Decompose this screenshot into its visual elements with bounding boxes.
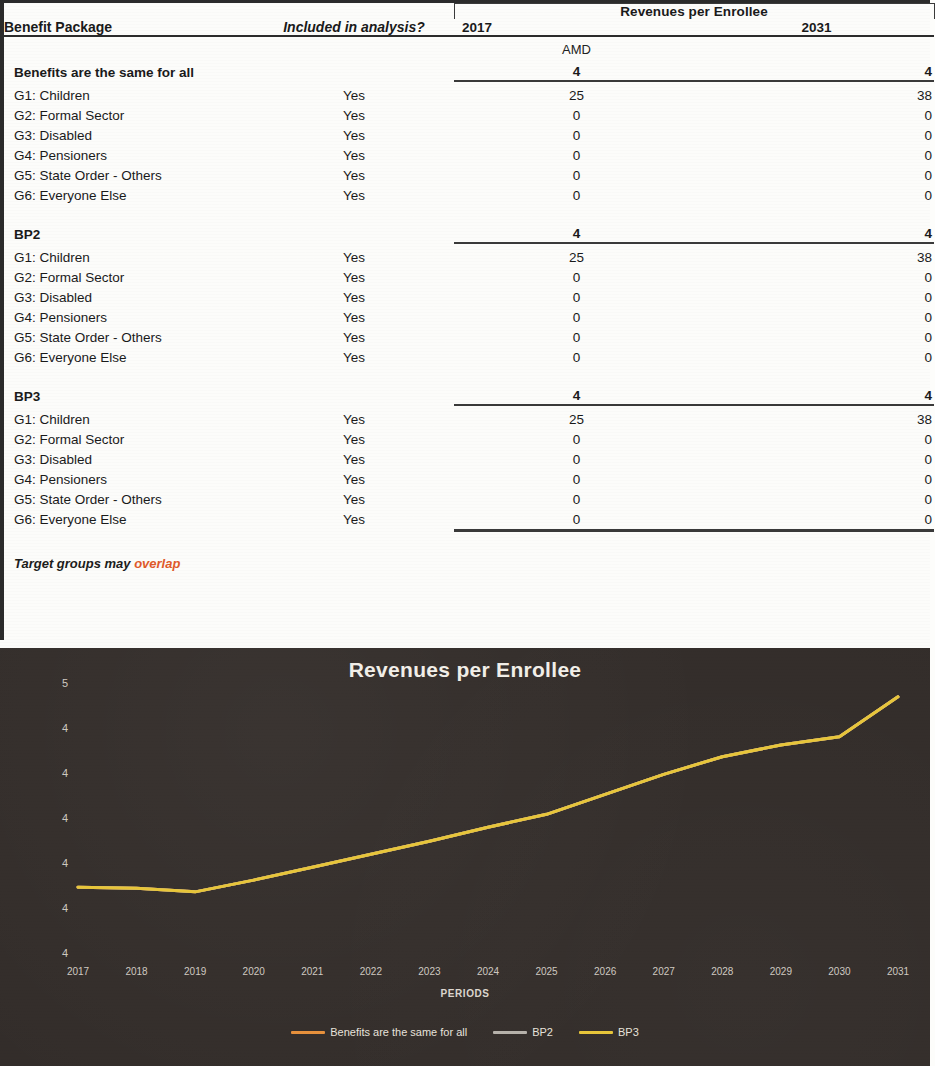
x-axis-tick: 2017 bbox=[67, 966, 89, 977]
row-value-2017: 25 bbox=[454, 85, 699, 105]
table-row: G1: ChildrenYes2538 bbox=[4, 409, 934, 429]
row-group-name: G3: Disabled bbox=[4, 287, 254, 307]
table-bottom-rule-row bbox=[4, 531, 934, 543]
section-total-2017: 4 bbox=[454, 60, 699, 81]
row-group-name: G4: Pensioners bbox=[4, 145, 254, 165]
row-included-value: Yes bbox=[254, 185, 454, 205]
row-included-value: Yes bbox=[254, 307, 454, 327]
row-value-2031: 0 bbox=[699, 469, 934, 489]
row-group-name: G6: Everyone Else bbox=[4, 347, 254, 367]
row-value-2017: 0 bbox=[454, 125, 699, 145]
row-group-name: G1: Children bbox=[4, 409, 254, 429]
row-group-name: G2: Formal Sector bbox=[4, 105, 254, 125]
bottom-rule-2017 bbox=[454, 531, 699, 543]
chart-series-svg bbox=[68, 678, 908, 960]
table-row: G3: DisabledYes00 bbox=[4, 125, 934, 145]
row-value-2017: 0 bbox=[454, 165, 699, 185]
legend-swatch bbox=[579, 1031, 613, 1034]
chart-x-axis-ticks: 2017201820192020202120222023202420252026… bbox=[68, 966, 908, 982]
table-row: G2: Formal SectorYes00 bbox=[4, 429, 934, 449]
x-axis-tick: 2026 bbox=[594, 966, 616, 977]
table-unit-row: AMD bbox=[4, 36, 934, 60]
group-header-revenues-per-enrollee: Revenues per Enrollee bbox=[454, 4, 934, 20]
row-included-value: Yes bbox=[254, 409, 454, 429]
row-group-name: G5: State Order - Others bbox=[4, 327, 254, 347]
row-included-value: Yes bbox=[254, 469, 454, 489]
legend-swatch bbox=[493, 1031, 527, 1034]
legend-item[interactable]: BP3 bbox=[579, 1026, 639, 1038]
row-value-2031: 38 bbox=[699, 85, 934, 105]
x-axis-tick: 2022 bbox=[360, 966, 382, 977]
table-group-header-row: Revenues per Enrollee bbox=[4, 4, 934, 20]
unit-spacer-mid bbox=[254, 36, 454, 60]
row-group-name: G4: Pensioners bbox=[4, 469, 254, 489]
row-included-value: Yes bbox=[254, 165, 454, 185]
table-row: G3: DisabledYes00 bbox=[4, 449, 934, 469]
row-value-2031: 0 bbox=[699, 125, 934, 145]
row-value-2031: 0 bbox=[699, 165, 934, 185]
row-value-2031: 0 bbox=[699, 267, 934, 287]
footnote-highlight: overlap bbox=[134, 556, 180, 571]
section-name: Benefits are the same for all bbox=[4, 60, 254, 81]
legend-item[interactable]: BP2 bbox=[493, 1026, 553, 1038]
section-spacer-row bbox=[4, 367, 934, 384]
unit-spacer-right bbox=[699, 36, 934, 60]
table-row: G5: State Order - OthersYes00 bbox=[4, 327, 934, 347]
legend-item[interactable]: Benefits are the same for all bbox=[291, 1026, 467, 1038]
row-value-2017: 0 bbox=[454, 449, 699, 469]
row-included-value: Yes bbox=[254, 267, 454, 287]
spacer-cell bbox=[699, 205, 934, 222]
benefit-package-table: Revenues per Enrollee Benefit Package In… bbox=[4, 3, 935, 571]
legend-label: BP3 bbox=[618, 1026, 639, 1038]
row-value-2031: 0 bbox=[699, 449, 934, 469]
table-column-header-row: Benefit Package Included in analysis? 20… bbox=[4, 19, 934, 36]
table-row: G6: Everyone ElseYes00 bbox=[4, 509, 934, 531]
table-row: G4: PensionersYes00 bbox=[4, 469, 934, 489]
chart-y-axis-ticks: 5444444 bbox=[40, 683, 68, 953]
chart-legend: Benefits are the same for allBP2BP3 bbox=[0, 1026, 930, 1038]
section-spacer-row bbox=[4, 205, 934, 222]
legend-swatch bbox=[291, 1031, 325, 1034]
row-included-value: Yes bbox=[254, 85, 454, 105]
footnote-cell: Target groups may overlap bbox=[4, 542, 934, 571]
row-group-name: G5: State Order - Others bbox=[4, 165, 254, 185]
row-value-2031: 0 bbox=[699, 429, 934, 449]
section-total-2017: 4 bbox=[454, 222, 699, 243]
row-value-2017: 25 bbox=[454, 247, 699, 267]
row-included-value: Yes bbox=[254, 287, 454, 307]
row-value-2031: 38 bbox=[699, 247, 934, 267]
section-total-2031: 4 bbox=[699, 384, 934, 405]
section-total-2017: 4 bbox=[454, 384, 699, 405]
x-axis-tick: 2020 bbox=[243, 966, 265, 977]
table-row: G2: Formal SectorYes00 bbox=[4, 267, 934, 287]
x-axis-tick: 2031 bbox=[887, 966, 909, 977]
spacer-cell bbox=[454, 367, 699, 384]
spacer-cell bbox=[4, 367, 254, 384]
row-included-value: Yes bbox=[254, 105, 454, 125]
column-header-included-in-analysis: Included in analysis? bbox=[254, 19, 454, 36]
x-axis-tick: 2018 bbox=[125, 966, 147, 977]
table-row: G5: State Order - OthersYes00 bbox=[4, 489, 934, 509]
row-value-2017: 0 bbox=[454, 185, 699, 205]
row-value-2017: 25 bbox=[454, 409, 699, 429]
spacer-cell bbox=[254, 205, 454, 222]
section-included-blank bbox=[254, 60, 454, 81]
unit-spacer-left bbox=[4, 36, 254, 60]
row-value-2017: 0 bbox=[454, 105, 699, 125]
row-value-2031: 0 bbox=[699, 509, 934, 531]
section-included-blank bbox=[254, 222, 454, 243]
row-group-name: G3: Disabled bbox=[4, 125, 254, 145]
row-included-value: Yes bbox=[254, 509, 454, 531]
x-axis-tick: 2024 bbox=[477, 966, 499, 977]
row-value-2017: 0 bbox=[454, 267, 699, 287]
bottom-rule-spacer-mid bbox=[254, 531, 454, 543]
header-spacer-mid bbox=[254, 4, 454, 20]
row-value-2017: 0 bbox=[454, 307, 699, 327]
row-group-name: G6: Everyone Else bbox=[4, 185, 254, 205]
bottom-rule-2031 bbox=[699, 531, 934, 543]
row-group-name: G1: Children bbox=[4, 247, 254, 267]
row-value-2031: 0 bbox=[699, 347, 934, 367]
row-included-value: Yes bbox=[254, 449, 454, 469]
section-included-blank bbox=[254, 384, 454, 405]
row-value-2031: 38 bbox=[699, 409, 934, 429]
